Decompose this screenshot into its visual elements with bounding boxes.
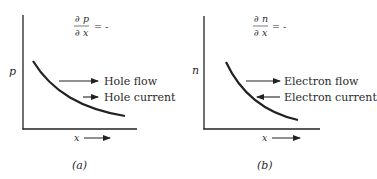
panel-caption: (a)	[72, 159, 87, 172]
electron-current-label: Electron current	[284, 91, 377, 104]
diffusion-figure: p x ∂ p ∂ x = - Hole flow Hole current (…	[0, 0, 377, 179]
panel-b: n x ∂ n ∂ x = - Electron flow Electron c…	[192, 13, 377, 172]
gradient-numerator: ∂ p	[75, 13, 89, 24]
gradient-numerator: ∂ n	[254, 13, 268, 24]
panel-a: p x ∂ p ∂ x = - Hole flow Hole current (…	[9, 13, 176, 172]
y-axis-label: p	[9, 65, 16, 78]
gradient-relation: = -	[272, 21, 286, 32]
y-axis-label: n	[192, 64, 199, 77]
concentration-curve	[33, 61, 125, 116]
gradient-denominator: ∂ x	[254, 27, 268, 38]
hole-current-label: Hole current	[104, 91, 176, 104]
hole-flow-label: Hole flow	[104, 75, 158, 88]
electron-flow-label: Electron flow	[284, 75, 359, 88]
gradient-denominator: ∂ x	[75, 27, 89, 38]
x-axis-label: x	[262, 132, 268, 143]
x-axis-label: x	[74, 132, 80, 143]
gradient-relation: = -	[94, 21, 108, 32]
panel-caption: (b)	[257, 159, 273, 172]
